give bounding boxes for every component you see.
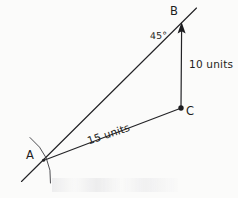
point-label-a: A — [26, 150, 34, 162]
vertex-dot-a — [42, 159, 45, 162]
vertex-dot-c — [178, 105, 183, 110]
segment-c-to-b — [181, 30, 182, 108]
geometry-figure: B C A 45° 10 units 15 units — [0, 0, 238, 198]
measure-label-bc: 10 units — [189, 59, 233, 70]
point-label-c: C — [186, 106, 194, 118]
ray-a-through-b — [22, 8, 197, 182]
figure-canvas — [0, 0, 238, 198]
angle-label-45-degrees: 45° — [150, 31, 168, 41]
point-label-b: B — [170, 6, 178, 18]
